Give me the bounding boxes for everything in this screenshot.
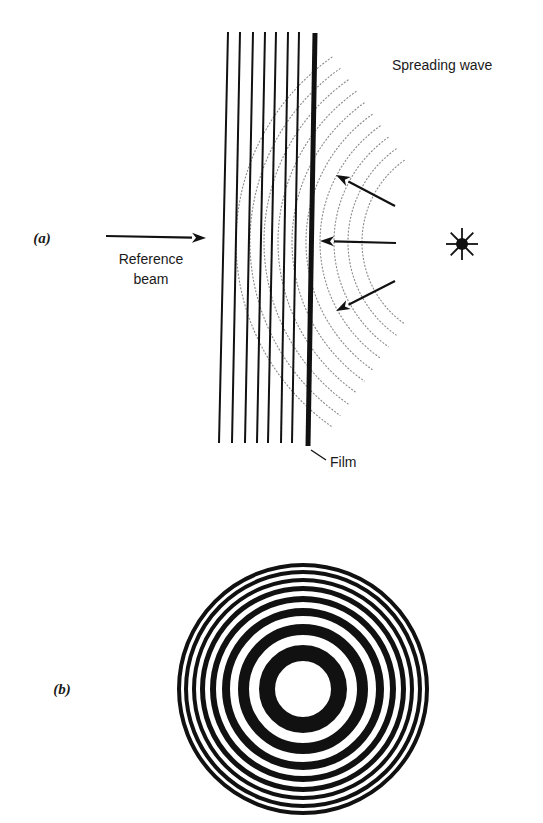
reference-wavefront-lines <box>219 32 299 443</box>
arrowhead-icon <box>336 175 351 186</box>
dark-ring-band <box>226 612 380 766</box>
panel-b-interference-rings: (b) <box>53 565 427 813</box>
reference-wavefront-line <box>219 32 228 443</box>
spreading-wave-label: Spreading wave <box>392 57 493 73</box>
reference-wavefront-line <box>281 32 288 443</box>
point-source-star-icon <box>446 228 478 260</box>
reference-wavefront-line <box>232 32 240 443</box>
panel-b-label: (b) <box>53 681 71 698</box>
reference-beam-arrow <box>106 233 206 243</box>
panel-a-recording-setup: (a) Reference beam Film Spreading wave <box>33 32 492 470</box>
hologram-diagram: (a) Reference beam Film Spreading wave (… <box>0 0 543 823</box>
reference-beam-label-line2: beam <box>133 271 168 287</box>
fresnel-zone-rings <box>179 565 427 813</box>
panel-a-label: (a) <box>33 230 51 247</box>
reference-wavefront-line <box>257 32 265 443</box>
dark-ring-band <box>186 572 420 806</box>
wave-direction-arrow-icon <box>336 175 395 206</box>
dark-ring-band <box>179 565 427 813</box>
wave-direction-arrow-icon <box>320 236 396 246</box>
arrowhead-icon <box>336 300 351 311</box>
dark-ring-band <box>203 589 404 790</box>
film-plate <box>308 33 315 446</box>
dark-ring-band <box>267 653 339 725</box>
film-leader-line <box>311 450 326 460</box>
film-label: Film <box>330 454 356 470</box>
reference-wavefront-line <box>268 32 276 443</box>
reference-beam-label-line1: Reference <box>119 251 184 267</box>
arrowhead-icon <box>320 236 334 246</box>
reference-wavefront-line <box>292 32 299 443</box>
reference-beam-arrow-icon <box>106 233 206 243</box>
reference-wavefront-line <box>245 32 253 443</box>
arrowhead-icon <box>192 233 206 243</box>
